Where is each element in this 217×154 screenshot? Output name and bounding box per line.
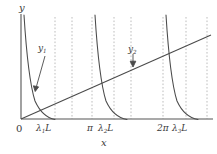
lambda-1-symbol: λ: [36, 123, 42, 133]
x-tick-label-origin: 0: [16, 124, 22, 134]
x-tick-label-pi: π: [87, 124, 93, 133]
x-tick-label-lambda2: λ2L: [98, 124, 113, 133]
lambda-3-symbol: λ: [172, 123, 178, 133]
x-tick-label-lambda3: λ3L: [172, 124, 187, 133]
y-axis-label: y: [19, 3, 25, 13]
cot-branch-1: [24, 15, 55, 120]
curve-label-y1: y1: [38, 44, 47, 53]
lambda-3-length: L: [181, 123, 187, 133]
x-tick-label-two-pi: 2π: [157, 124, 169, 133]
arrow-shaft-y1: [36, 56, 45, 88]
x-axis-label: x: [101, 138, 107, 148]
curve-label-y1-subscript: 1: [43, 48, 47, 54]
lambda-1-subscript: 1: [42, 128, 46, 134]
eigenvalue-graphical-solution-figure: y x 0 λ1L π λ2L 2π λ3L y1 y2: [0, 0, 217, 154]
lambda-2-symbol: λ: [98, 123, 104, 133]
x-tick-label-lambda1: λ1L: [36, 124, 51, 133]
gridlines: [55, 17, 207, 119]
cot-branch-2: [95, 15, 127, 120]
cotangent-branches: [24, 15, 198, 120]
curve-label-y2-subscript: 2: [133, 49, 137, 55]
lambda-3-subscript: 3: [178, 128, 182, 134]
curve-label-y2: y2: [128, 45, 137, 54]
arrow-head-y1: [33, 86, 38, 92]
lambda-1-length: L: [45, 123, 51, 133]
annotation-arrow-y1: [33, 56, 45, 92]
line-y2-curve: [21, 35, 211, 119]
axes: [21, 14, 213, 119]
lambda-2-length: L: [107, 123, 113, 133]
lambda-2-subscript: 2: [104, 128, 108, 134]
cot-branch-3: [166, 15, 198, 120]
